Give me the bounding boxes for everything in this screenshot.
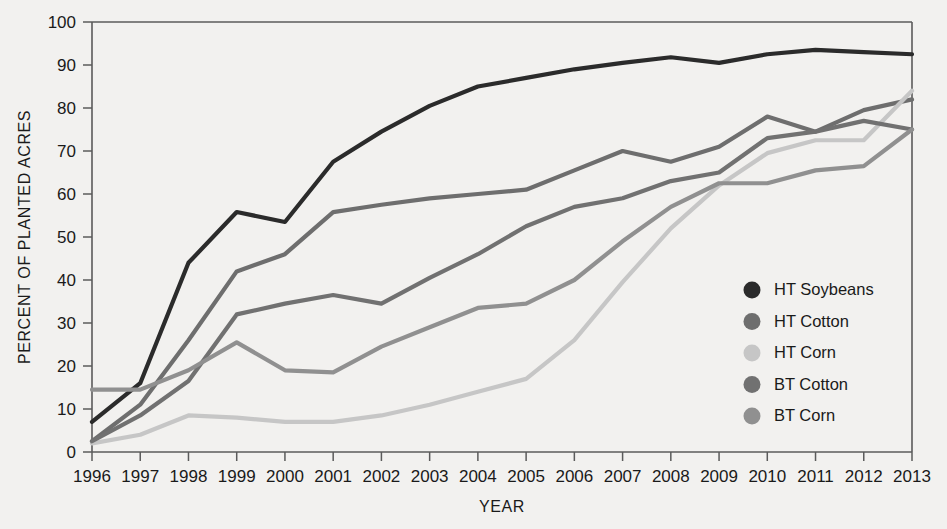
y-tick-label: 0 xyxy=(67,443,76,462)
legend-color-dot xyxy=(744,282,761,299)
y-tick-label: 40 xyxy=(57,271,76,290)
legend-color-dot xyxy=(744,408,761,425)
y-axis-tick-labels: 0102030405060708090100 xyxy=(48,13,76,462)
x-tick-label: 2003 xyxy=(411,467,449,486)
legend-item-label: BT Cotton xyxy=(774,375,848,393)
y-tick-label: 90 xyxy=(57,56,76,75)
series-line-ht-soybeans xyxy=(92,50,912,422)
legend-item-label: BT Corn xyxy=(774,406,835,424)
y-tick-label: 20 xyxy=(57,357,76,376)
legend-color-dot xyxy=(744,345,761,362)
y-tick-label: 100 xyxy=(48,13,76,32)
x-tick-label: 2011 xyxy=(797,467,834,486)
legend-item[interactable]: HT Cotton xyxy=(744,312,849,331)
legend-item[interactable]: BT Corn xyxy=(744,406,836,425)
legend-item[interactable]: BT Cotton xyxy=(744,375,848,394)
x-tick-label: 1997 xyxy=(121,467,159,486)
x-tick-label: 2000 xyxy=(266,467,304,486)
x-tick-label: 1996 xyxy=(73,467,111,486)
legend-item[interactable]: HT Soybeans xyxy=(744,280,874,299)
y-axis-ticks xyxy=(83,22,92,452)
legend-item-label: HT Corn xyxy=(774,343,836,361)
legend-item-label: HT Soybeans xyxy=(774,280,874,298)
x-tick-label: 2007 xyxy=(604,467,642,486)
x-tick-label: 2008 xyxy=(652,467,690,486)
x-tick-label: 2002 xyxy=(362,467,400,486)
y-tick-label: 60 xyxy=(57,185,76,204)
y-tick-label: 80 xyxy=(57,99,76,118)
x-tick-label: 2004 xyxy=(459,467,497,486)
chart-container: 0102030405060708090100 19961997199819992… xyxy=(0,0,947,529)
x-axis-title: YEAR xyxy=(479,498,525,515)
y-axis-title: PERCENT OF PLANTED ACRES xyxy=(16,110,33,364)
y-tick-label: 30 xyxy=(57,314,76,333)
legend-item[interactable]: HT Corn xyxy=(744,343,837,362)
x-tick-label: 1998 xyxy=(170,467,208,486)
legend-item-label: HT Cotton xyxy=(774,312,849,330)
x-tick-label: 2009 xyxy=(700,467,738,486)
x-tick-label: 2005 xyxy=(507,467,545,486)
x-tick-label: 2012 xyxy=(845,467,883,486)
x-tick-label: 2001 xyxy=(314,467,352,486)
x-axis-ticks xyxy=(92,452,912,461)
legend: HT SoybeansHT CottonHT CornBT CottonBT C… xyxy=(744,280,874,425)
legend-color-dot xyxy=(744,313,761,330)
legend-color-dot xyxy=(744,376,761,393)
line-chart: 0102030405060708090100 19961997199819992… xyxy=(0,0,947,529)
y-tick-label: 10 xyxy=(57,400,76,419)
y-tick-label: 70 xyxy=(57,142,76,161)
x-tick-label: 2010 xyxy=(748,467,786,486)
x-tick-label: 2006 xyxy=(555,467,593,486)
x-tick-label: 1999 xyxy=(218,467,256,486)
x-tick-label: 2013 xyxy=(893,467,931,486)
y-tick-label: 50 xyxy=(57,228,76,247)
x-axis-tick-labels: 1996199719981999200020012002200320042005… xyxy=(73,467,931,486)
